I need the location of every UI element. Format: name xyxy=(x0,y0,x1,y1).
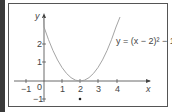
x-axis-label: x xyxy=(145,84,151,94)
vertex-point xyxy=(79,98,82,101)
equation-label: y = (x − 2)² − 1 xyxy=(116,36,172,46)
x-axis-arrow-icon xyxy=(146,79,151,83)
parabola-curve-extension xyxy=(116,17,120,27)
y-axis-label: y xyxy=(34,11,40,21)
x-tick-label: 2 xyxy=(78,84,83,94)
y-tick-label: −1 xyxy=(33,94,43,104)
x-tick-label: 1 xyxy=(60,84,65,94)
parabola-curve xyxy=(44,27,116,81)
y-axis-arrow-icon xyxy=(42,13,46,18)
y-tick-label: 2 xyxy=(37,39,42,49)
x-tick-label: 3 xyxy=(96,84,101,94)
x-tick-label: −1 xyxy=(21,84,31,94)
y-tick-label: 1 xyxy=(37,57,42,67)
parabola-chart: −1 0 1 2 3 4 2 1 −1 x y y = (x − 2)² − 1 xyxy=(0,0,172,112)
x-tick-label: 4 xyxy=(115,84,120,94)
x-tick-label: 0 xyxy=(37,82,42,92)
parabola-curve-extension xyxy=(44,17,45,27)
